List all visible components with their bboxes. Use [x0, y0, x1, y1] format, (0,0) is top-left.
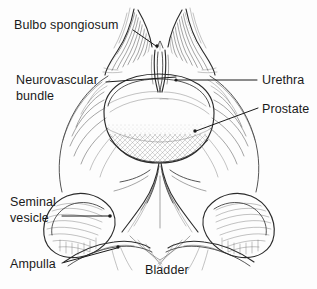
bulbospongiosus-right-horn — [168, 8, 217, 75]
anatomical-figure: Bulbo spongiosum Neurovascular bundle Ur… — [0, 0, 317, 289]
urethra-stalk — [151, 41, 168, 92]
label-neurovascular-bundle-line1: Neurovascular — [16, 73, 98, 87]
label-ampulla: Ampulla — [10, 257, 56, 271]
label-neurovascular-bundle-line2: bundle — [16, 89, 54, 103]
seminal-vesicle-right — [203, 193, 274, 257]
ampulla-left — [64, 241, 152, 266]
label-urethra: Urethra — [262, 73, 304, 87]
leader-dot-bulbo-spongiosum — [155, 44, 158, 47]
central-cleft — [114, 163, 206, 232]
leader-dot-prostate — [193, 129, 196, 132]
label-bladder: Bladder — [145, 263, 189, 277]
prostate — [100, 74, 220, 166]
leader-dot-urethra — [174, 78, 177, 81]
leader-dot-ampulla — [116, 245, 119, 248]
label-prostate: Prostate — [262, 102, 309, 116]
anatomy-drawing: Bulbo spongiosum Neurovascular bundle Ur… — [0, 0, 317, 289]
leader-ampulla — [62, 248, 117, 263]
label-seminal-vesicle-line1: Seminal — [10, 195, 56, 209]
label-seminal-vesicle-line2: vesicle — [10, 211, 49, 225]
leader-prostate — [196, 108, 258, 131]
leader-dot-seminal-vesicle — [108, 214, 112, 218]
label-bulbo-spongiosum: Bulbo spongiosum — [14, 18, 118, 32]
